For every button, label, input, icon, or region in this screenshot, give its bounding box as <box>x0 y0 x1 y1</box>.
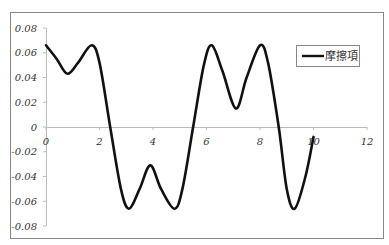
y-tick-label: 0.02 <box>15 97 37 108</box>
chart: 0.080.060.040.020-0.02-0.04-0.06-0.08 02… <box>0 0 389 245</box>
y-tick-label: 0.06 <box>15 47 38 58</box>
y-tick-label: 0.08 <box>15 23 37 34</box>
y-tick-label: 0 <box>31 122 38 133</box>
y-tick-label: -0.08 <box>11 221 37 232</box>
x-tick-label: 4 <box>149 136 156 147</box>
legend: 摩擦項 <box>297 46 360 67</box>
legend-label: 摩擦項 <box>325 49 358 63</box>
x-tick-label: 6 <box>203 136 210 147</box>
x-tick-label: 8 <box>257 136 263 147</box>
y-tick-label: -0.04 <box>11 171 37 182</box>
x-tick-label: 12 <box>361 136 374 147</box>
x-tick-label: 2 <box>95 136 102 147</box>
x-tick-label: 0 <box>43 136 50 147</box>
y-tick-label: 0.04 <box>15 72 37 83</box>
y-tick-label: -0.02 <box>11 146 37 157</box>
y-tick-label: -0.06 <box>11 196 37 207</box>
